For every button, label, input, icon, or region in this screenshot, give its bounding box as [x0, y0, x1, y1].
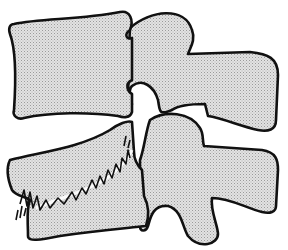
vertebrae-illustration: [0, 0, 288, 250]
upper-vertebral-body: [9, 12, 132, 119]
upper-posterior-elements: [126, 13, 278, 130]
lower-vertebral-body: [8, 121, 148, 239]
lower-posterior-elements: [140, 114, 278, 244]
